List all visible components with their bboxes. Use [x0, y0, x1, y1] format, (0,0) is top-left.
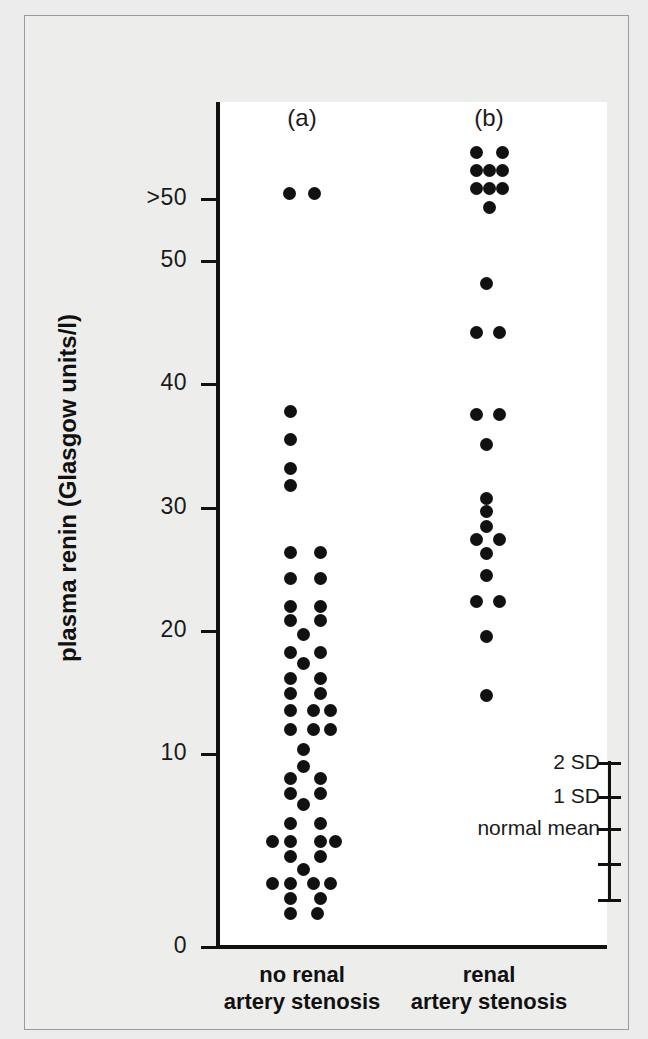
data-point	[480, 492, 493, 505]
sd-tick-mark	[598, 762, 621, 765]
data-point	[284, 850, 297, 863]
data-point	[496, 164, 509, 177]
data-point	[284, 462, 297, 475]
sd-label-wrap: 1 SD	[325, 784, 600, 806]
data-point	[480, 277, 493, 290]
data-point	[480, 547, 493, 560]
sd-label-wrap: 2 SD	[325, 750, 600, 772]
data-point	[284, 817, 297, 830]
data-point	[470, 595, 483, 608]
data-point	[307, 704, 320, 717]
data-point	[496, 146, 509, 159]
data-point	[314, 772, 327, 785]
data-point	[284, 672, 297, 685]
y-tick-label: 30	[25, 493, 195, 520]
data-point	[284, 704, 297, 717]
data-point	[470, 326, 483, 339]
y-tick-label-wrap: 20	[25, 616, 195, 640]
x-label-group-b: renal artery stenosis	[374, 962, 604, 1016]
data-point	[284, 479, 297, 492]
y-tick-label: 50	[25, 246, 195, 273]
y-tick-mark	[201, 507, 216, 510]
data-point	[284, 546, 297, 559]
data-point	[284, 772, 297, 785]
y-tick-label-wrap: 0	[25, 932, 195, 956]
data-point	[470, 146, 483, 159]
data-point	[480, 505, 493, 518]
sd-label: normal mean	[477, 816, 600, 839]
data-point	[314, 687, 327, 700]
y-tick-label-wrap: >50	[25, 184, 195, 208]
y-tick-mark	[201, 946, 216, 949]
y-tick-mark	[201, 630, 216, 633]
data-point	[480, 569, 493, 582]
x-axis-line	[216, 945, 607, 949]
y-tick-label: >50	[25, 184, 195, 211]
sd-tick-mark	[598, 828, 621, 831]
y-tick-mark	[201, 753, 216, 756]
data-point	[297, 657, 310, 670]
data-point	[284, 835, 297, 848]
x-label-group-b-line2: artery stenosis	[374, 989, 604, 1016]
y-tick-label-wrap: 40	[25, 369, 195, 393]
y-tick-label: 10	[25, 739, 195, 766]
data-point	[496, 182, 509, 195]
y-tick-label: 0	[25, 932, 195, 959]
data-point	[297, 798, 310, 811]
data-point	[283, 187, 296, 200]
data-point	[314, 546, 327, 559]
data-point	[470, 164, 483, 177]
data-point	[284, 687, 297, 700]
data-point	[284, 892, 297, 905]
data-point	[284, 877, 297, 890]
data-point	[480, 689, 493, 702]
sd-label-wrap: normal mean	[325, 816, 600, 838]
y-tick-mark	[201, 260, 216, 263]
y-tick-label: 20	[25, 616, 195, 643]
data-point	[297, 760, 310, 773]
data-point	[324, 704, 337, 717]
data-point	[483, 164, 496, 177]
x-label-group-b-line1: renal	[374, 962, 604, 989]
y-tick-label: 40	[25, 369, 195, 396]
data-point	[311, 907, 324, 920]
data-point	[266, 877, 279, 890]
data-point	[307, 723, 320, 736]
data-point	[314, 600, 327, 613]
sd-scale-axis	[608, 761, 611, 902]
sd-label: 1 SD	[553, 784, 600, 807]
data-point	[284, 787, 297, 800]
sd-tick-mark	[598, 796, 621, 799]
data-point	[470, 408, 483, 421]
data-point	[284, 907, 297, 920]
data-point	[284, 614, 297, 627]
data-point	[324, 723, 337, 736]
data-point	[297, 743, 310, 756]
data-point	[284, 646, 297, 659]
sd-label: 2 SD	[553, 750, 600, 773]
data-point	[297, 628, 310, 641]
data-point	[480, 438, 493, 451]
data-point	[470, 182, 483, 195]
data-point	[483, 182, 496, 195]
data-point	[324, 877, 337, 890]
y-tick-mark	[201, 198, 216, 201]
data-point	[284, 433, 297, 446]
data-point	[314, 646, 327, 659]
data-point	[284, 572, 297, 585]
figure-root: plasma renin (Glasgow units/l) >50504030…	[0, 0, 648, 1039]
data-point	[284, 600, 297, 613]
y-tick-label-wrap: 10	[25, 739, 195, 763]
y-tick-label-wrap: 50	[25, 246, 195, 270]
data-point	[314, 572, 327, 585]
sd-tick-mark	[598, 899, 621, 902]
y-tick-label-wrap: 30	[25, 493, 195, 517]
panel-letter-a: (a)	[262, 104, 342, 132]
data-point	[493, 595, 506, 608]
data-point	[493, 408, 506, 421]
y-tick-mark	[201, 383, 216, 386]
data-point	[470, 533, 483, 546]
data-point	[314, 672, 327, 685]
data-point	[307, 877, 320, 890]
data-point	[284, 723, 297, 736]
